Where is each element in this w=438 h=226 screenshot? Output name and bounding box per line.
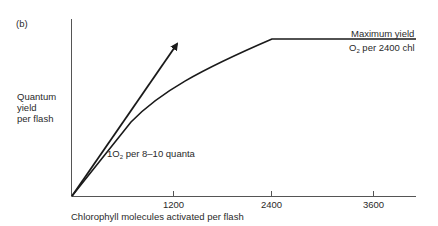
initial-slope-arrow: [72, 44, 177, 196]
x-tick-label-1200: 1200: [163, 199, 184, 210]
max-yield-label: Maximum yield: [351, 28, 414, 39]
slope-annotation: 1O2 per 8–10 quanta: [107, 148, 195, 159]
slope-suffix: per 8–10 quanta: [123, 148, 195, 159]
yield-curve: [72, 39, 416, 196]
x-tick-label-3600: 3600: [363, 199, 384, 210]
x-axis-label: Chlorophyll molecules activated per flas…: [71, 211, 244, 222]
x-tick-label-2400: 2400: [261, 199, 282, 210]
slope-prefix: 1O: [107, 148, 120, 159]
max-yield-suffix: per 2400 chl: [360, 42, 415, 53]
max-yield-sublabel: O2 per 2400 chl: [349, 42, 415, 53]
